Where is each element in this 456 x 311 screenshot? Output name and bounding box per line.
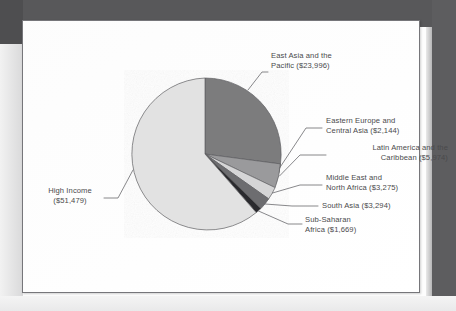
leader-sub-saharan-africa [259,211,303,224]
leader-south-asia [265,204,318,206]
label-high-income: High Income ($51,479) [24,186,116,205]
label-eastern-europe-and-central-asia: Eastern Europe and Central Asia ($2,144) [326,116,444,135]
leader-middle-east-and-north-africa [273,185,323,193]
leader-east-asia-and-the-pacific [248,72,268,90]
leader-eastern-europe-and-central-asia [280,128,322,168]
pie-slices [132,78,281,230]
label-sub-saharan-africa: Sub-Saharan Africa ($1,669) [305,215,425,234]
label-east-asia-and-the-pacific: East Asia and the Pacific ($23,996) [271,51,376,70]
label-latin-america-and-the-caribbean: Latin America and the Caribbean ($5,974) [330,143,448,162]
screenshot-root: East Asia and the Pacific ($23,996) East… [0,0,456,311]
label-middle-east-and-north-africa: Middle East and North Africa ($3,275) [326,173,444,192]
label-south-asia: South Asia ($3,294) [322,201,444,211]
